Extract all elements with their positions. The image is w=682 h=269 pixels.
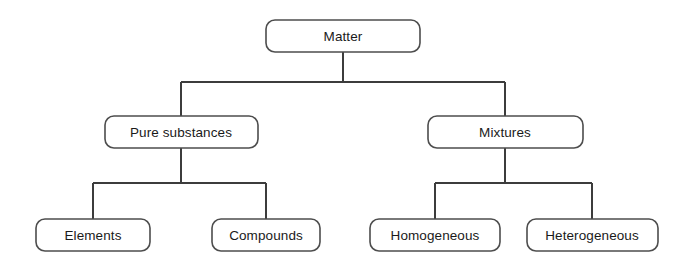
node-pure-substances-label: Pure substances <box>130 125 232 140</box>
node-compounds-label: Compounds <box>229 228 303 243</box>
node-homogeneous-label: Homogeneous <box>391 228 480 243</box>
node-compounds[interactable]: Compounds <box>212 219 320 251</box>
node-mixtures-label: Mixtures <box>479 125 531 140</box>
classification-of-matter-diagram: Matter Pure substances Mixtures Elements… <box>0 0 682 269</box>
tree-diagram-canvas: Matter Pure substances Mixtures Elements… <box>0 0 682 269</box>
node-mixtures[interactable]: Mixtures <box>428 116 583 148</box>
node-elements[interactable]: Elements <box>36 219 150 251</box>
node-heterogeneous[interactable]: Heterogeneous <box>527 219 658 251</box>
node-heterogeneous-label: Heterogeneous <box>545 228 639 243</box>
node-elements-label: Elements <box>64 228 121 243</box>
node-matter-label: Matter <box>324 29 363 44</box>
node-homogeneous[interactable]: Homogeneous <box>370 219 500 251</box>
node-matter[interactable]: Matter <box>266 20 420 52</box>
node-pure-substances[interactable]: Pure substances <box>105 116 258 148</box>
